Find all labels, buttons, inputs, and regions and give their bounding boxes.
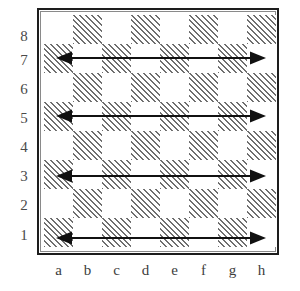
chessboard-diagram: 8 7 6 5 4 3 2 1 [0, 0, 300, 291]
file-label-c: c [102, 263, 131, 278]
square-f8 [189, 15, 218, 44]
file-label-g: g [218, 263, 247, 278]
square-f2 [189, 189, 218, 218]
rank-label-8: 8 [12, 29, 36, 43]
square-a8 [44, 15, 73, 44]
square-g8 [218, 15, 247, 44]
file-label-e: e [160, 263, 189, 278]
rank-3-arrow [56, 168, 266, 184]
square-a2 [44, 189, 73, 218]
square-c2 [102, 189, 131, 218]
square-h4 [247, 131, 276, 160]
square-e4 [160, 131, 189, 160]
file-label-h: h [247, 263, 276, 278]
square-a6 [44, 73, 73, 102]
square-e2 [160, 189, 189, 218]
file-label-b: b [73, 263, 102, 278]
square-h6 [247, 73, 276, 102]
square-h2 [247, 189, 276, 218]
square-b2 [73, 189, 102, 218]
square-c8 [102, 15, 131, 44]
rank-label-4: 4 [12, 140, 36, 154]
file-label-f: f [189, 263, 218, 278]
square-e8 [160, 15, 189, 44]
rank-label-2: 2 [12, 198, 36, 212]
square-f6 [189, 73, 218, 102]
square-b6 [73, 73, 102, 102]
rank-7-arrow [56, 50, 266, 66]
rank-label-5: 5 [12, 111, 36, 125]
square-f4 [189, 131, 218, 160]
rank-5-arrow [56, 108, 266, 124]
square-d6 [131, 73, 160, 102]
file-label-a: a [44, 263, 73, 278]
square-g6 [218, 73, 247, 102]
rank-label-1: 1 [12, 228, 36, 242]
square-b4 [73, 131, 102, 160]
rank-1-arrow [56, 230, 266, 246]
square-a4 [44, 131, 73, 160]
rank-label-6: 6 [12, 82, 36, 96]
square-d4 [131, 131, 160, 160]
square-g4 [218, 131, 247, 160]
square-c4 [102, 131, 131, 160]
square-g2 [218, 189, 247, 218]
square-e6 [160, 73, 189, 102]
square-d2 [131, 189, 160, 218]
rank-label-3: 3 [12, 169, 36, 183]
square-d8 [131, 15, 160, 44]
file-label-d: d [131, 263, 160, 278]
square-b8 [73, 15, 102, 44]
square-h8 [247, 15, 276, 44]
square-c6 [102, 73, 131, 102]
rank-label-7: 7 [12, 53, 36, 67]
